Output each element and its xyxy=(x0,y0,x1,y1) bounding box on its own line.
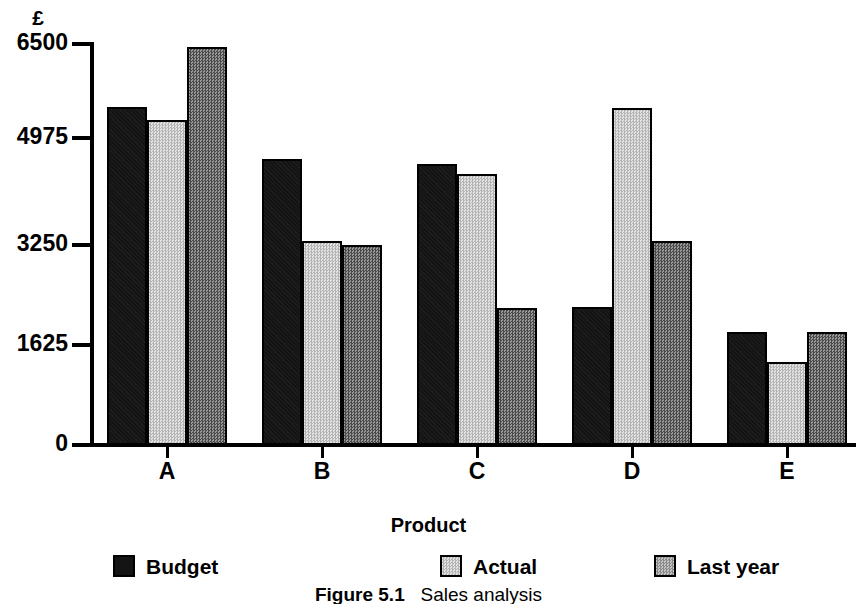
x-axis-tick-label-C: C xyxy=(447,459,507,483)
legend-swatch-icon xyxy=(440,555,462,577)
bar-last-year-E xyxy=(807,332,847,445)
bar-actual-C xyxy=(457,174,497,445)
legend-label: Actual xyxy=(473,556,537,577)
plot-area xyxy=(90,44,857,445)
x-axis-tick-mark xyxy=(476,447,479,458)
legend-item-budget: Budget xyxy=(113,552,218,580)
bar-budget-C xyxy=(417,164,457,445)
bar-budget-B xyxy=(262,159,302,445)
y-axis-tick-label: 3250 xyxy=(0,232,68,255)
bar-budget-A xyxy=(107,107,147,445)
x-axis-tick-label-A: A xyxy=(137,459,197,483)
y-axis-tick-label: 4975 xyxy=(0,125,68,148)
chart-legend: BudgetActualLast year xyxy=(0,552,857,582)
bar-actual-A xyxy=(147,120,187,445)
figure-caption-number: Figure 5.1 xyxy=(315,585,405,604)
legend-label: Last year xyxy=(687,556,779,577)
legend-swatch-icon xyxy=(113,555,135,577)
bar-last-year-D xyxy=(652,241,692,445)
y-axis-unit-label: £ xyxy=(18,6,58,30)
y-axis-tick-label: 0 xyxy=(0,432,68,455)
legend-swatch-icon xyxy=(654,555,676,577)
y-axis-tick-label: 6500 xyxy=(0,31,68,54)
figure-caption-title: Sales analysis xyxy=(421,585,542,604)
bar-last-year-B xyxy=(342,245,382,445)
bar-last-year-A xyxy=(187,47,227,445)
bar-actual-D xyxy=(612,108,652,445)
x-axis-tick-mark xyxy=(166,447,169,458)
bar-last-year-C xyxy=(497,308,537,445)
x-axis-tick-label-B: B xyxy=(292,459,352,483)
figure-caption-text xyxy=(405,585,421,604)
legend-item-last-year: Last year xyxy=(654,552,779,580)
figure-caption: Figure 5.1 Sales analysis xyxy=(0,585,857,604)
legend-item-actual: Actual xyxy=(440,552,537,580)
bar-budget-E xyxy=(727,332,767,445)
x-axis-tick-mark xyxy=(631,447,634,458)
x-axis-tick-label-E: E xyxy=(757,459,817,483)
y-axis-tick-label: 1625 xyxy=(0,332,68,355)
x-axis-tick-mark xyxy=(321,447,324,458)
bar-budget-D xyxy=(572,307,612,445)
bar-actual-E xyxy=(767,362,807,445)
x-axis-tick-mark xyxy=(786,447,789,458)
x-axis-title: Product xyxy=(0,514,857,537)
bar-actual-B xyxy=(302,241,342,445)
x-axis-tick-label-D: D xyxy=(602,459,662,483)
legend-label: Budget xyxy=(146,556,218,577)
